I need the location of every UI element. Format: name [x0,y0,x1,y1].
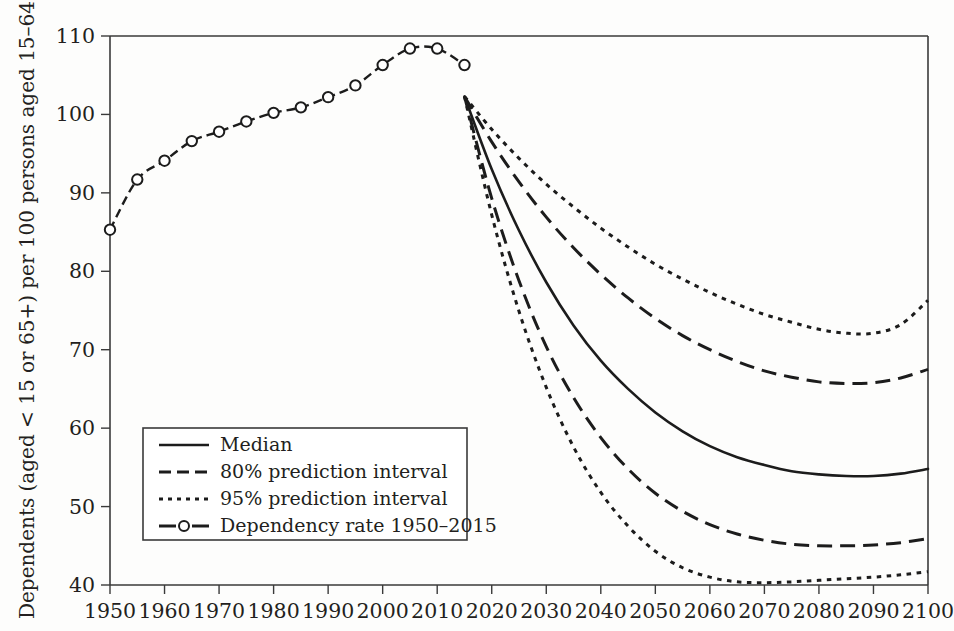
historical-data-point [323,92,333,102]
x-tick-label: 2070 [738,599,790,623]
y-axis-ticks: 405060708090100110 [56,24,110,597]
historical-data-point [268,108,278,118]
historical-data-point [187,136,197,146]
historical-data-point [241,116,251,126]
historical-marker-layer [105,43,470,235]
y-tick-label: 70 [69,338,95,362]
historical-data-point [214,126,224,136]
y-tick-label: 50 [69,495,95,519]
series-line-4 [464,96,928,334]
y-tick-label: 110 [56,24,95,48]
historical-data-point [105,225,115,235]
historical-data-point [296,102,306,112]
x-tick-label: 1950 [84,599,136,623]
series-line-3 [464,96,928,546]
x-tick-label: 2030 [520,599,572,623]
series-line-2 [464,96,928,383]
x-tick-label: 2080 [793,599,845,623]
x-tick-label: 2000 [357,599,409,623]
x-tick-label: 2010 [411,599,463,623]
historical-data-point [159,156,169,166]
y-tick-label: 60 [69,416,95,440]
x-tick-label: 1970 [193,599,245,623]
legend-swatch-circle-icon [179,521,189,531]
historical-data-point [405,43,415,53]
y-axis-title: Dependents (aged < 15 or 65+) per 100 pe… [15,1,39,619]
y-tick-label: 100 [56,102,95,126]
legend-item-label: Median [220,433,293,455]
x-tick-label: 1980 [248,599,300,623]
y-tick-label: 40 [69,573,95,597]
chart-canvas: 405060708090100110 195019601970198019902… [0,0,954,631]
x-tick-label: 2020 [466,599,518,623]
historical-data-point [377,60,387,70]
historical-data-point [459,60,469,70]
x-tick-label: 1990 [302,599,354,623]
legend-item-label: 95% prediction interval [220,487,447,509]
legend-item-label: 80% prediction interval [220,460,447,482]
historical-data-point [132,174,142,184]
legend-item-label: Dependency rate 1950–2015 [220,514,497,536]
x-axis-ticks: 1950196019701980199020002010202020302040… [84,585,954,623]
x-tick-label: 1960 [138,599,190,623]
x-tick-label: 2100 [902,599,954,623]
series-line-0 [110,46,464,229]
y-tick-label: 90 [69,181,95,205]
historical-data-point [350,80,360,90]
historical-data-point [432,43,442,53]
x-tick-label: 2090 [847,599,899,623]
x-tick-label: 2050 [629,599,681,623]
y-tick-label: 80 [69,259,95,283]
x-tick-label: 2040 [575,599,627,623]
dependency-ratio-chart: 405060708090100110 195019601970198019902… [0,0,954,631]
x-tick-label: 2060 [684,599,736,623]
series-line-5 [464,96,928,582]
legend: Median80% prediction interval95% predict… [143,428,497,540]
